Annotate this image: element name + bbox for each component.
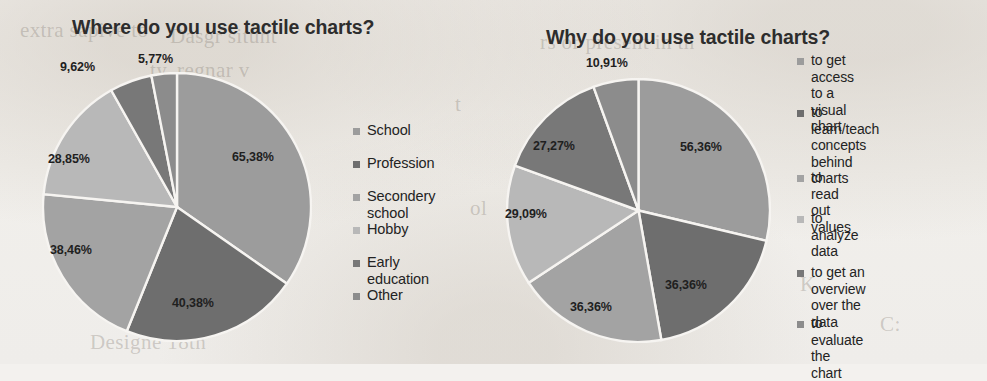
legend-label: Early education [367, 254, 429, 288]
legend-label: School [367, 122, 411, 139]
legend-label: Other [367, 287, 403, 304]
legend-swatch-icon [353, 260, 360, 267]
slice-label-visual-chart: 56,36% [680, 140, 722, 154]
legend-swatch-icon [353, 161, 360, 168]
chart-title-where: Where do you use tactile charts? [72, 16, 374, 39]
slice-label-hobby: 28,85% [48, 152, 90, 166]
legend-swatch-icon [797, 270, 804, 277]
slice-label-concepts: 36,36% [665, 278, 707, 292]
slice-label-evaluate: 10,91% [586, 56, 628, 70]
slice-label-school: 65,38% [232, 150, 274, 164]
legend-label: to analyze data [811, 210, 859, 260]
slice-label-profession: 40,38% [172, 296, 214, 310]
slice-label-read-values: 36,36% [570, 300, 612, 314]
slice-label-early-education: 9,62% [60, 60, 95, 74]
legend-swatch-icon [353, 128, 360, 135]
slice-label-secondery-school: 38,46% [50, 243, 92, 257]
legend-where-item[interactable]: School [353, 122, 411, 139]
legend-where-item[interactable]: Profession [353, 155, 435, 172]
legend-where-item[interactable]: Early education [353, 254, 429, 288]
legend-label: Profession [367, 155, 435, 172]
legend-where-item[interactable]: Other [353, 287, 403, 304]
slice-label-analyze-data: 29,09% [505, 207, 547, 221]
chart-title-why: Why do you use tactile charts? [546, 26, 830, 49]
legend-where-item[interactable]: Hobby [353, 221, 408, 238]
legend-swatch-icon [797, 175, 804, 182]
slice-label-overview: 27,27% [533, 139, 575, 153]
legend-swatch-icon [353, 227, 360, 234]
legend-where-item[interactable]: Secondery school [353, 188, 435, 222]
legend-swatch-icon [353, 194, 360, 201]
legend-swatch-icon [797, 321, 804, 328]
legend-swatch-icon [353, 293, 360, 300]
legend-swatch-icon [797, 58, 804, 65]
legend-label: to evaluate the chart [811, 315, 863, 381]
legend-why-item[interactable]: to analyze data [797, 210, 859, 260]
slice-label-other: 5,77% [138, 52, 173, 66]
legend-label: Hobby [367, 221, 408, 238]
legend-why-item[interactable]: to evaluate the chart [797, 315, 863, 381]
legend-swatch-icon [797, 110, 804, 117]
legend-swatch-icon [797, 216, 804, 223]
legend-label: Secondery school [367, 188, 435, 222]
